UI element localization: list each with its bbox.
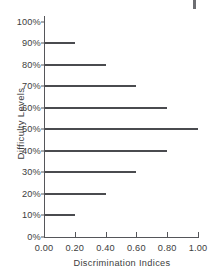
x-tick-mark bbox=[136, 232, 137, 238]
y-tick-label: 40% bbox=[1, 146, 41, 156]
y-tick-label: 90% bbox=[1, 38, 41, 48]
bar-30pct bbox=[44, 171, 136, 173]
y-tick-label: 60% bbox=[1, 103, 41, 113]
y-axis-tick-labels: 0%10%20%30%40%50%60%70%80%90%100% bbox=[0, 0, 41, 273]
y-tick-label: 0% bbox=[1, 232, 41, 242]
x-axis-line bbox=[44, 237, 199, 238]
page-corner-mark bbox=[193, 0, 196, 9]
x-axis-title: Discrimination Indices bbox=[44, 258, 200, 268]
y-tick-label: 30% bbox=[1, 167, 41, 177]
y-tick-mark bbox=[41, 215, 45, 216]
bar-10pct bbox=[44, 214, 75, 216]
y-tick-mark bbox=[41, 193, 45, 194]
x-tick-mark bbox=[106, 232, 107, 238]
x-tick-label: 1.00 bbox=[178, 243, 217, 253]
y-axis-line bbox=[44, 16, 45, 238]
bar-80pct bbox=[44, 64, 106, 66]
y-tick-mark bbox=[41, 43, 45, 44]
y-tick-label: 80% bbox=[1, 60, 41, 70]
y-tick-mark bbox=[41, 129, 45, 130]
y-tick-mark bbox=[41, 150, 45, 151]
x-tick-mark bbox=[75, 232, 76, 238]
y-tick-mark bbox=[41, 86, 45, 87]
bar-20pct bbox=[44, 193, 106, 195]
y-tick-label: 100% bbox=[1, 17, 41, 27]
y-tick-label: 70% bbox=[1, 81, 41, 91]
bar-40pct bbox=[44, 150, 167, 152]
y-tick-mark bbox=[41, 237, 45, 238]
x-tick-mark bbox=[198, 232, 199, 238]
discrimination-indices-chart: Difficulty Levels 0%10%20%30%40%50%60%70… bbox=[0, 0, 217, 273]
bar-60pct bbox=[44, 107, 167, 109]
y-tick-mark bbox=[41, 21, 45, 22]
bar-70pct bbox=[44, 85, 136, 87]
y-tick-label: 10% bbox=[1, 210, 41, 220]
y-tick-mark bbox=[41, 172, 45, 173]
x-tick-mark bbox=[167, 232, 168, 238]
y-tick-label: 50% bbox=[1, 124, 41, 134]
y-tick-label: 20% bbox=[1, 189, 41, 199]
bar-50pct bbox=[44, 128, 198, 130]
y-tick-mark bbox=[41, 64, 45, 65]
bar-90pct bbox=[44, 42, 75, 44]
y-tick-mark bbox=[41, 107, 45, 108]
